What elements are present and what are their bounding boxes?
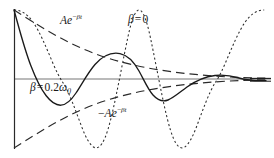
label-beta-zero: β=0 (128, 14, 148, 26)
label-beta-zero-value: 0 (142, 13, 148, 25)
label-beta-damped-symbol: β (30, 81, 36, 93)
label-lower-envelope-minus: − (98, 107, 105, 119)
label-beta-damped-omega-subscript: 0 (67, 87, 71, 96)
label-upper-envelope-base: Ae (60, 14, 72, 26)
label-beta-damped-value: 0.2 (44, 81, 59, 93)
label-lower-envelope: −Ae−βt (98, 107, 127, 119)
label-beta-zero-symbol: β (128, 13, 134, 25)
damped-oscillation-figure: Ae−βt β=0 β=0.2ω0 −Ae−βt (0, 0, 274, 158)
label-upper-envelope-exponent: −βt (72, 13, 82, 21)
label-upper-envelope: Ae−βt (60, 14, 82, 26)
label-beta-damped: β=0.2ω0 (30, 82, 71, 96)
label-lower-envelope-exponent: −βt (117, 106, 127, 114)
label-lower-envelope-base: Ae (105, 107, 117, 119)
